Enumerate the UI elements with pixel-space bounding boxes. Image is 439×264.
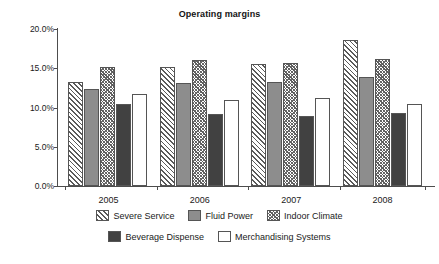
x-tick-mark [65, 186, 66, 190]
bar-fluid-power-2005 [84, 89, 99, 186]
legend-swatch-icon [218, 231, 231, 242]
chart-title: Operating margins [0, 9, 439, 19]
y-tick-label: 10.0% [10, 103, 54, 113]
y-tick-label: 5.0% [10, 142, 54, 152]
bar-severe-service-2005 [68, 82, 83, 186]
bar-group-bars [160, 29, 240, 186]
legend-label: Merchandising Systems [235, 232, 331, 242]
chart-legend: Severe ServiceFluid PowerIndoor Climate … [0, 205, 439, 247]
operating-margins-chart: Operating margins 0.0%5.0%10.0%15.0%20.0… [0, 0, 439, 264]
bar-severe-service-2006 [160, 67, 175, 186]
bar-beverage-dispense-2008 [391, 113, 406, 186]
bar-merchandising-systems-2007 [315, 98, 330, 186]
x-axis-line [57, 186, 435, 187]
bar-indoor-climate-2006 [192, 60, 207, 186]
y-tick-label: 20.0% [10, 24, 54, 34]
bar-fluid-power-2006 [176, 83, 191, 186]
x-axis-category-label: 2007 [251, 195, 331, 205]
legend-row-top: Severe ServiceFluid PowerIndoor Climate [0, 205, 439, 226]
legend-swatch-icon [108, 231, 121, 242]
bar-group-bars [343, 29, 423, 186]
legend-row-bottom: Beverage DispenseMerchandising Systems [0, 226, 439, 247]
legend-item-merchandising-systems[interactable]: Merchandising Systems [218, 231, 331, 242]
x-axis-category-label: 2006 [160, 195, 240, 205]
legend-label: Fluid Power [205, 211, 253, 221]
bar-beverage-dispense-2005 [116, 104, 131, 186]
legend-item-beverage-dispense[interactable]: Beverage Dispense [108, 231, 204, 242]
legend-swatch-icon [267, 210, 280, 221]
legend-item-severe-service[interactable]: Severe Service [96, 210, 174, 221]
x-axis-category-label: 2008 [343, 195, 423, 205]
y-tick-label: 0.0% [10, 181, 54, 191]
legend-swatch-icon [188, 210, 201, 221]
bar-group-2006: 2006 [160, 29, 240, 186]
bar-indoor-climate-2008 [375, 59, 390, 186]
bar-fluid-power-2008 [359, 77, 374, 186]
plot-area: 2005200620072008 [57, 29, 434, 186]
x-tick-mark [425, 186, 426, 190]
bar-merchandising-systems-2006 [224, 100, 239, 186]
legend-item-fluid-power[interactable]: Fluid Power [188, 210, 253, 221]
bar-group-2007: 2007 [251, 29, 331, 186]
bar-merchandising-systems-2005 [132, 94, 147, 186]
bar-severe-service-2008 [343, 40, 358, 186]
legend-label: Indoor Climate [284, 211, 343, 221]
bar-group-bars [251, 29, 331, 186]
x-tick-mark [157, 186, 158, 190]
y-axis-tick-labels: 0.0%5.0%10.0%15.0%20.0% [4, 29, 54, 186]
bar-indoor-climate-2007 [283, 63, 298, 186]
bar-group-2008: 2008 [343, 29, 423, 186]
legend-label: Severe Service [113, 211, 174, 221]
y-tick-label: 15.0% [10, 63, 54, 73]
x-tick-mark [340, 186, 341, 190]
legend-label: Beverage Dispense [125, 232, 204, 242]
bar-beverage-dispense-2007 [299, 116, 314, 186]
bar-fluid-power-2007 [267, 82, 282, 186]
bar-group-bars [68, 29, 148, 186]
bar-indoor-climate-2005 [100, 67, 115, 186]
bar-severe-service-2007 [251, 64, 266, 186]
legend-item-indoor-climate[interactable]: Indoor Climate [267, 210, 343, 221]
bar-merchandising-systems-2008 [407, 104, 422, 186]
y-tick-mark [54, 186, 58, 187]
bar-group-2005: 2005 [68, 29, 148, 186]
x-tick-mark [248, 186, 249, 190]
legend-swatch-icon [96, 210, 109, 221]
bar-beverage-dispense-2006 [208, 114, 223, 186]
x-axis-category-label: 2005 [68, 195, 148, 205]
